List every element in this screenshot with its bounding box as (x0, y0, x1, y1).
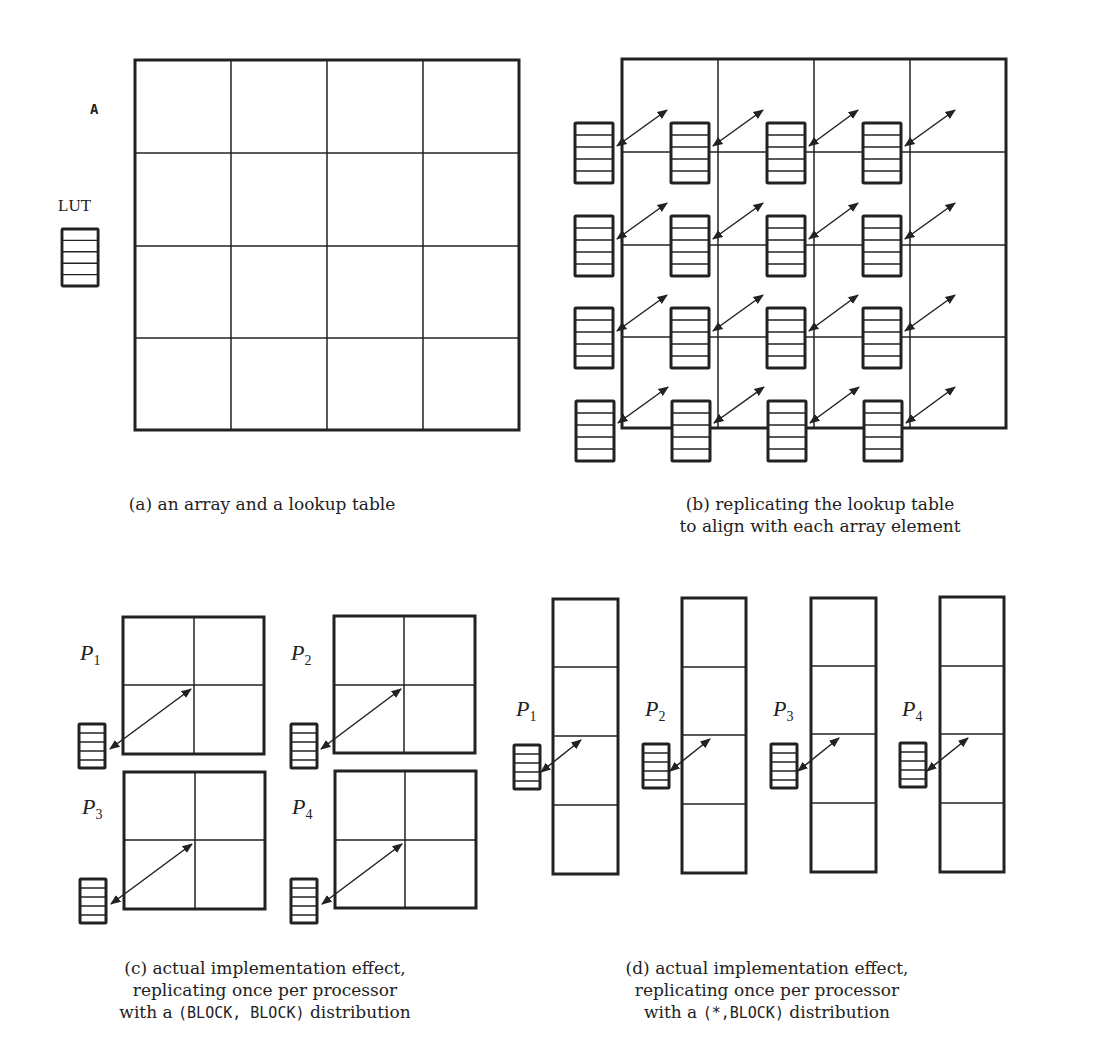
caption-c-line1: (c) actual implementation effect, (75, 957, 455, 979)
panel-b-replicated-luts (575, 123, 902, 461)
panel-c-label-p2: P2 (291, 640, 311, 669)
caption-d-line2: replicating once per processor (597, 979, 937, 1001)
caption-a-text: (a) an array and a lookup table (129, 494, 396, 514)
panel-d-column-p1 (553, 599, 618, 874)
caption-d-line1: (d) actual implementation effect, (597, 957, 937, 979)
caption-c-line3: with a (BLOCK, BLOCK) distribution (75, 1001, 455, 1024)
panel-c-label-p4: P4 (292, 794, 312, 823)
caption-c: (c) actual implementation effect, replic… (75, 957, 455, 1024)
panel-d-label-p2: P2 (645, 696, 665, 725)
panel-d-column-p4 (940, 597, 1004, 872)
caption-d-code: (*,BLOCK) (703, 1004, 784, 1022)
caption-a: (a) an array and a lookup table (112, 493, 412, 515)
panel-c-block-p1 (123, 617, 264, 754)
panel-a-array-grid (135, 60, 519, 430)
panel-d-label-p1: P1 (516, 696, 536, 725)
panel-d-column-p3 (811, 598, 876, 872)
panel-a-lut (62, 229, 98, 286)
panel-c-block-p2 (334, 616, 475, 753)
panel-c-block-p4 (335, 771, 476, 908)
panel-d-label-p3: P3 (773, 696, 793, 725)
panel-d-luts (514, 743, 926, 789)
caption-c-code: (BLOCK, BLOCK) (178, 1004, 304, 1022)
panel-d-column-p2 (682, 598, 746, 873)
panel-c-arrows (110, 689, 402, 904)
caption-b-line1: (b) replicating the lookup table (650, 493, 990, 515)
lut-label: LUT (58, 196, 91, 216)
caption-d-line3: with a (*,BLOCK) distribution (597, 1001, 937, 1024)
panel-d-label-p4: P4 (902, 696, 922, 725)
caption-d: (d) actual implementation effect, replic… (597, 957, 937, 1024)
caption-c-line2: replicating once per processor (75, 979, 455, 1001)
caption-b: (b) replicating the lookup table to alig… (650, 493, 990, 537)
panel-c-label-p1: P1 (80, 640, 100, 669)
array-a-label: A (90, 101, 98, 117)
panel-c-label-p3: P3 (82, 794, 102, 823)
caption-b-line2: to align with each array element (650, 515, 990, 537)
panel-c-block-p3 (124, 772, 265, 909)
